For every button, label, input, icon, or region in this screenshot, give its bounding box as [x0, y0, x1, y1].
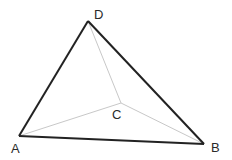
vertex-label-a: A [11, 141, 20, 156]
edge-bc [121, 103, 204, 144]
vertex-label-b: B [211, 140, 220, 155]
edge-db [88, 21, 204, 144]
edge-dc [88, 21, 121, 103]
solid-edges [19, 21, 204, 144]
edge-ad [19, 21, 88, 136]
edge-ac [19, 103, 121, 136]
vertex-label-d: D [94, 7, 103, 22]
hidden-edges [19, 21, 204, 144]
edge-ab [19, 136, 204, 144]
vertex-label-c: C [112, 107, 121, 122]
tetrahedron-diagram: A B C D [0, 0, 232, 160]
